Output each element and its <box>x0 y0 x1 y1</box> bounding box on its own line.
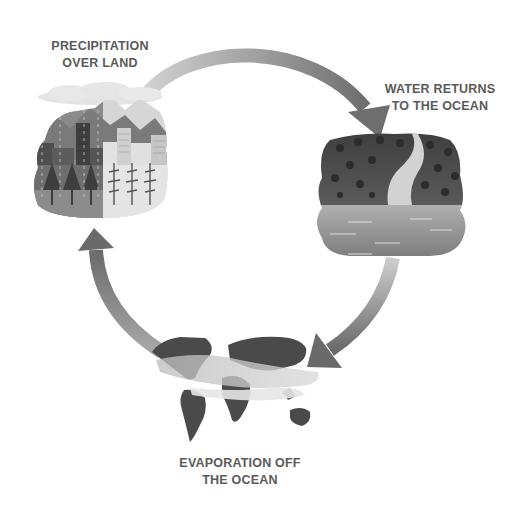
arrow-precipitation-to-runoff <box>145 55 390 138</box>
arrow-evaporation-to-precipitation <box>78 228 162 352</box>
label-precipitation: PRECIPITATION OVER LAND <box>30 38 170 72</box>
label-runoff-line2: TO THE OCEAN <box>375 98 505 115</box>
label-evaporation: EVAPORATION OFF THE OCEAN <box>170 455 310 489</box>
label-evaporation-line2: THE OCEAN <box>170 472 310 489</box>
label-evaporation-line1: EVAPORATION OFF <box>170 455 310 472</box>
label-runoff-line1: WATER RETURNS <box>375 81 505 98</box>
precipitation-illustration <box>30 82 173 220</box>
label-runoff: WATER RETURNS TO THE OCEAN <box>375 81 505 115</box>
arrow-runoff-to-evaporation <box>307 258 393 368</box>
label-precipitation-line1: PRECIPITATION <box>30 38 170 55</box>
runoff-illustration <box>310 130 470 260</box>
label-precipitation-line2: OVER LAND <box>30 55 170 72</box>
evaporation-illustration <box>152 337 319 442</box>
water-cycle-diagram <box>0 0 512 511</box>
